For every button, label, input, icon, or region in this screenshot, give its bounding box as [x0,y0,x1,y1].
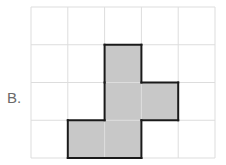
shaded-cell [68,120,105,158]
shaded-cell [105,83,142,121]
shaded-cell [141,83,178,121]
shaded-cell [105,45,142,83]
shaded-cell [105,120,142,158]
grid-diagram [0,0,226,165]
